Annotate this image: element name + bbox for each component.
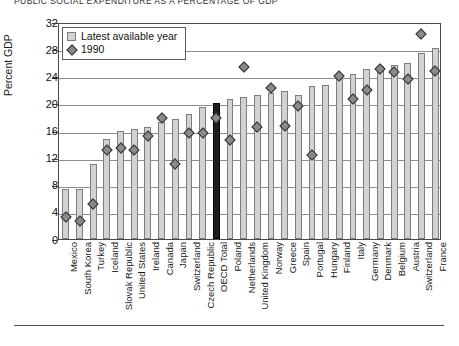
x-tick-label: Greece — [288, 242, 298, 273]
x-tick-label: Iceland — [110, 242, 120, 273]
x-axis-labels: MexicoSouth KoreaTurkeyIcelandSlovak Rep… — [58, 242, 441, 308]
bar — [295, 95, 302, 239]
x-tick-label: Canada — [165, 242, 175, 275]
x-tick-label: Ireland — [151, 242, 161, 271]
x-tick-label: Japan — [178, 242, 188, 268]
y-tick-mark — [52, 240, 58, 241]
x-tick-label: Germany — [370, 242, 380, 281]
bar — [322, 85, 329, 239]
bar — [309, 86, 316, 239]
chart-figure: PUBLIC SOCIAL EXPENDITURE AS A PERCENTAG… — [0, 0, 459, 346]
bar — [227, 99, 234, 239]
bar — [336, 76, 343, 239]
bar — [240, 97, 247, 239]
bar — [432, 48, 439, 239]
diamond-swatch-icon — [66, 44, 77, 55]
x-tick-label: Turkey — [96, 242, 106, 271]
x-tick-label: OECD Total — [219, 242, 229, 292]
x-tick-label: France — [438, 242, 448, 272]
bar — [213, 103, 220, 239]
x-tick-label: Denmark — [383, 242, 393, 281]
x-tick-label: Switzerland — [424, 242, 434, 291]
x-tick-label: South Korea — [83, 242, 93, 295]
bar — [254, 95, 261, 239]
bar — [172, 119, 179, 239]
bar — [404, 63, 411, 239]
bar-swatch-icon — [67, 32, 76, 41]
x-tick-label: Netherlands — [247, 242, 257, 293]
x-tick-label: United Kingdom — [260, 242, 270, 310]
bar — [268, 93, 275, 239]
bar — [391, 65, 398, 239]
bar — [418, 53, 425, 239]
x-tick-label: Czech Republic — [206, 242, 216, 309]
x-tick-label: Poland — [233, 242, 243, 272]
x-tick-label: Portugal — [315, 242, 325, 277]
x-tick-label: Norway — [274, 242, 284, 274]
legend-label-1990: 1990 — [81, 43, 104, 56]
x-tick-label: United States — [137, 242, 147, 299]
bar — [281, 91, 288, 240]
footer-divider — [14, 325, 444, 326]
x-tick-label: Switzerland — [192, 242, 202, 291]
x-tick-label: Spain — [301, 242, 311, 266]
marker-1990 — [416, 29, 427, 40]
bar — [158, 122, 165, 239]
x-tick-label: Italy — [356, 242, 366, 259]
legend-item-latest: Latest available year — [67, 30, 177, 43]
x-tick-label: Hungary — [329, 242, 339, 278]
legend-label-latest: Latest available year — [81, 30, 177, 43]
bar — [144, 127, 151, 239]
x-tick-label: Slovak Republic — [124, 242, 134, 310]
x-tick-label: Belgium — [397, 242, 407, 276]
legend-item-1990: 1990 — [67, 43, 177, 56]
x-tick-label: Mexico — [69, 242, 79, 272]
marker-1990 — [238, 62, 249, 73]
x-tick-label: Finland — [342, 242, 352, 273]
x-tick-label: Austria — [411, 242, 421, 272]
chart-legend: Latest available year 1990 — [62, 27, 186, 60]
bar — [377, 66, 384, 239]
